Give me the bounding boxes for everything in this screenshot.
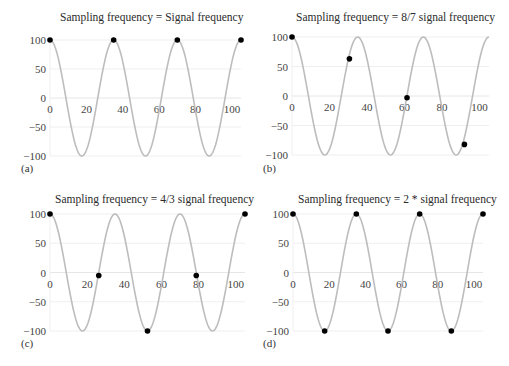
y-tick-label: 100	[30, 34, 47, 46]
y-tick-label: −50	[272, 296, 290, 308]
x-tick-label: 0	[47, 103, 53, 115]
y-tick-label: 0	[284, 267, 290, 279]
sample-point	[449, 328, 455, 334]
chart-c: 100500−50−100020406080100	[23, 208, 248, 337]
sample-point	[145, 328, 151, 334]
sample-point	[47, 37, 53, 43]
sample-point	[385, 328, 391, 334]
sample-point	[96, 273, 102, 279]
x-tick-label: 100	[466, 278, 483, 290]
sample-point	[354, 211, 360, 217]
y-tick-label: 50	[278, 237, 290, 249]
x-tick-label: 20	[324, 101, 336, 113]
x-tick-label: 40	[362, 101, 374, 113]
chart-canvas: 100500−50−100020406080100 100500−50−1000…	[0, 0, 509, 366]
chart-b: 100500−50−100020406080100	[265, 31, 489, 161]
x-tick-label: 0	[47, 278, 53, 290]
sample-point	[404, 95, 410, 101]
sample-point	[462, 142, 468, 148]
chart-a: 100500−50−100020406080100	[23, 34, 244, 162]
y-tick-label: 0	[41, 267, 47, 279]
sample-point	[480, 211, 486, 217]
sample-point	[242, 211, 248, 217]
y-tick-label: 0	[283, 90, 289, 102]
x-tick-label: 40	[117, 103, 129, 115]
x-tick-label: 0	[289, 101, 295, 113]
x-tick-label: 40	[119, 278, 131, 290]
sample-point	[47, 211, 53, 217]
sample-point	[347, 56, 353, 62]
sample-point	[193, 273, 199, 279]
x-tick-label: 40	[360, 278, 372, 290]
y-tick-label: 100	[272, 31, 289, 43]
chart-d: 100500−50−100020406080100	[266, 208, 486, 337]
sample-point	[417, 211, 423, 217]
y-tick-label: 100	[273, 208, 290, 220]
sample-point	[111, 37, 117, 43]
y-tick-label: −50	[29, 296, 47, 308]
y-tick-label: −100	[23, 325, 46, 337]
x-tick-label: 20	[324, 278, 336, 290]
y-tick-label: 100	[30, 208, 47, 220]
y-tick-label: −100	[23, 150, 46, 162]
sample-point	[290, 211, 296, 217]
y-tick-label: 50	[277, 61, 289, 73]
x-tick-label: 20	[81, 103, 93, 115]
sample-point	[289, 34, 295, 40]
x-tick-label: 100	[471, 101, 488, 113]
x-tick-label: 20	[82, 278, 94, 290]
sample-point	[238, 37, 244, 43]
x-tick-label: 0	[290, 278, 296, 290]
x-tick-label: 100	[224, 103, 241, 115]
y-tick-label: −50	[29, 121, 47, 133]
y-tick-label: 50	[35, 63, 47, 75]
x-tick-label: 100	[227, 278, 244, 290]
y-tick-label: −50	[271, 120, 289, 132]
y-tick-label: −100	[265, 149, 288, 161]
y-tick-label: 50	[35, 237, 47, 249]
y-tick-label: 0	[41, 92, 47, 104]
sample-point	[322, 328, 328, 334]
sample-point	[175, 37, 181, 43]
y-tick-label: −100	[266, 325, 289, 337]
